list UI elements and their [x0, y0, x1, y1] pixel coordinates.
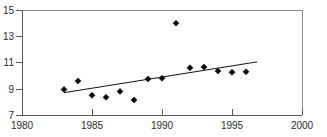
x-tick-label-1985: 1985: [81, 120, 104, 131]
data-point-marker: [159, 75, 165, 81]
data-point-marker: [187, 65, 193, 71]
cropped-caption-text: [23, 0, 273, 2]
data-point-marker: [173, 20, 179, 26]
data-point-marker: [243, 69, 249, 75]
y-tick-label-15: 15: [3, 5, 15, 16]
data-point-layer: [61, 20, 249, 103]
y-tick-label-11: 11: [4, 57, 15, 68]
scatter-chart-figure: 15 13 11 9 7 1980 1985 1990 1995 2000: [0, 0, 327, 137]
plot-frame: [22, 10, 302, 115]
data-point-marker: [75, 78, 81, 84]
x-tick-label-1990: 1990: [151, 120, 174, 131]
data-point-marker: [229, 69, 235, 75]
x-axis: 1980 1985 1990 1995 2000: [11, 109, 314, 131]
data-point-marker: [145, 76, 151, 82]
x-tick-label-1995: 1995: [221, 120, 244, 131]
data-point-marker: [61, 86, 67, 92]
data-point-marker: [103, 94, 109, 100]
y-tick-label-9: 9: [8, 84, 14, 95]
y-axis: 15 13 11 9 7: [3, 5, 22, 121]
y-tick-label-13: 13: [3, 31, 15, 42]
x-tick-label-2000: 2000: [291, 120, 314, 131]
data-point-marker: [89, 92, 95, 98]
x-tick-label-1980: 1980: [11, 120, 34, 131]
chart-canvas: 15 13 11 9 7 1980 1985 1990 1995 2000: [0, 0, 327, 137]
data-point-marker: [131, 97, 137, 103]
data-point-marker: [201, 64, 207, 70]
data-point-marker: [117, 88, 123, 94]
